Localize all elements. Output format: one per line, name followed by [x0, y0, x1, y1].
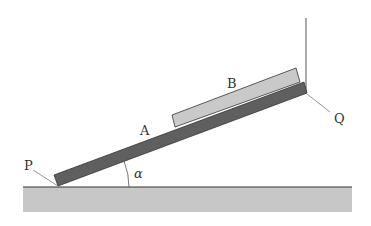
label-p: P [24, 158, 33, 173]
label-alpha: α [134, 166, 143, 181]
incline-diagram: P Q A B α [0, 0, 371, 226]
label-q: Q [334, 111, 345, 126]
q-leader-line [307, 94, 330, 112]
label-b: B [227, 76, 237, 91]
ground [23, 187, 352, 212]
plank-a [54, 82, 307, 186]
p-leader-line [33, 170, 58, 186]
label-a: A [139, 123, 150, 138]
angle-arc [124, 161, 129, 187]
